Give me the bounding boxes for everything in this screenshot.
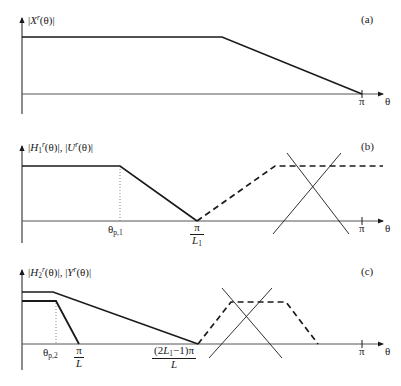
figure-svg: [0, 0, 401, 386]
panel-b-y-axis-label: |H1r(θ)|, |Ur(θ)|: [28, 141, 93, 154]
panel-a-tick-label-pi: π: [359, 96, 365, 107]
panel-a-letter: (a): [361, 14, 373, 25]
panel-c-letter: (c): [361, 266, 373, 277]
panel-b-tick-label-pi-over-l1: πL1: [190, 222, 204, 248]
panel-b-image-u-curve: [197, 166, 383, 221]
panel-c-spectrum-y-curve: [22, 292, 198, 344]
figure-canvas: |Xr(θ)| (a) π θ |H1r(θ)|, |Ur(θ)| (b) θp…: [0, 0, 401, 386]
panel-c-tick-label-pi: π: [359, 346, 365, 357]
panel-b-letter: (b): [361, 141, 374, 152]
panel-a-y-axis-label: |Xr(θ)|: [28, 14, 55, 26]
panel-c-crossing-line-up: [209, 288, 272, 358]
panel-c-x-axis-label: θ: [385, 346, 390, 357]
panel-c-y-axis-label: |H2r(θ)|, |Yr(θ)|: [28, 266, 91, 279]
panel-a-x-axis-label: θ: [385, 96, 390, 107]
panel-b-tick-label-pi: π: [359, 223, 365, 234]
panel-c-tick-label-band-edge: (2L1−1)πL: [152, 345, 196, 371]
panel-c-tick-label-theta-p2: θp,2: [43, 347, 58, 360]
panel-b-x-axis-label: θ: [385, 223, 390, 234]
panel-c-crossing-line-down: [222, 288, 282, 358]
panel-c-image-band-curve: [198, 302, 318, 344]
panel-c-tick-label-pi-over-l: πL: [74, 345, 84, 369]
panel-b-tick-label-theta-p1: θp,1: [108, 224, 123, 237]
panel-a-spectrum-curve: [22, 37, 362, 94]
panel-a: [22, 18, 383, 114]
panel-c-lowpass-h2-curve: [22, 301, 79, 344]
panel-b-lowpass-h1-curve: [22, 166, 197, 221]
